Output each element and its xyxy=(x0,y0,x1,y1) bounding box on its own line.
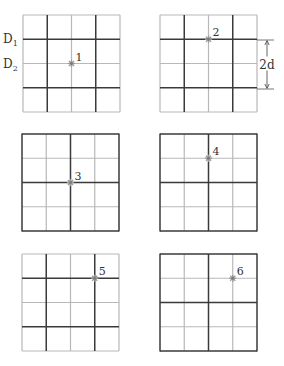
grid-panel-4: 4 xyxy=(160,133,257,231)
point-label: 6 xyxy=(237,265,244,278)
asterisk-marker-icon xyxy=(68,60,75,67)
grid-panel-5: 5 xyxy=(22,254,119,351)
dimension-label: 2d xyxy=(259,58,275,72)
dimension-annotation: 2d xyxy=(257,40,275,89)
asterisk-marker-icon xyxy=(67,179,74,186)
asterisk-marker-icon xyxy=(229,275,236,282)
grid-diagram: 123456 D1D2 2d xyxy=(0,0,284,366)
asterisk-marker-icon xyxy=(205,36,212,43)
grid-panel-1: 1 xyxy=(23,15,120,112)
asterisk-marker-icon xyxy=(205,155,212,162)
point-label: 4 xyxy=(213,145,220,158)
row-labels: D1D2 xyxy=(3,32,18,73)
row-label-d1: D1 xyxy=(3,32,18,48)
point-label: 3 xyxy=(75,170,82,183)
grid-panel-2: 2 xyxy=(160,15,257,112)
grid-panel-3: 3 xyxy=(22,133,119,231)
panels-layer: 123456 xyxy=(22,15,257,352)
row-label-d2: D2 xyxy=(3,57,18,73)
point-label: 5 xyxy=(99,265,106,278)
point-label: 1 xyxy=(76,51,83,64)
point-label: 2 xyxy=(213,26,220,39)
asterisk-marker-icon xyxy=(91,275,98,282)
grid-panel-6: 6 xyxy=(160,253,257,351)
